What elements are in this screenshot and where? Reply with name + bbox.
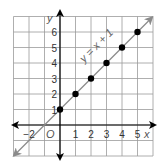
data-point	[57, 106, 63, 112]
x-axis-label: x	[143, 128, 150, 140]
x-tick-label: 3	[104, 129, 110, 140]
data-point	[72, 91, 78, 97]
tick-labels: −212345123456	[23, 27, 140, 140]
y-tick-label: 2	[51, 89, 57, 100]
x-tick-label: 5	[135, 129, 141, 140]
y-axis-label: y	[46, 12, 54, 24]
y-tick-label: 1	[51, 105, 57, 116]
x-tick-label: 4	[119, 129, 125, 140]
data-point	[103, 60, 109, 66]
x-tick-label: −2	[23, 129, 35, 140]
data-point	[119, 44, 125, 50]
x-tick-label: 1	[73, 129, 79, 140]
data-point	[88, 75, 94, 81]
y-tick-label: 3	[51, 74, 57, 85]
coordinate-graph: −212345123456 y x O y = x + 1	[0, 0, 160, 164]
x-tick-label: 2	[88, 129, 94, 140]
y-tick-label: 5	[51, 43, 57, 54]
y-tick-label: 6	[51, 27, 57, 38]
data-point	[134, 29, 140, 35]
y-tick-label: 4	[51, 58, 57, 69]
origin-label: O	[46, 128, 55, 140]
